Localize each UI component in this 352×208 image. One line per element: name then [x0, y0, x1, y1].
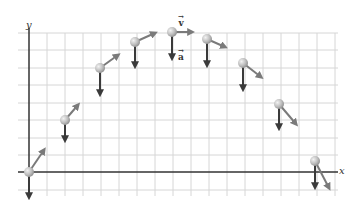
- y-axis-label: y: [26, 20, 32, 30]
- projectile-ball: [310, 156, 320, 166]
- projectile-ball: [202, 34, 212, 44]
- projectile-ball: [60, 115, 70, 125]
- projectile-ball: [274, 99, 284, 109]
- velocity-vector-label: → v: [176, 14, 186, 28]
- projectile-ball: [95, 63, 105, 73]
- velocity-symbol: v: [178, 18, 183, 28]
- projectile-ball: [238, 58, 248, 68]
- acceleration-symbol: a: [178, 52, 184, 62]
- projectile-ball: [130, 37, 140, 47]
- projectile-motion-diagram: [0, 0, 352, 208]
- x-axis-label: x: [339, 166, 345, 176]
- projectile-ball: [167, 27, 177, 37]
- projectile-ball: [24, 167, 34, 177]
- acceleration-vector-label: → a: [176, 48, 186, 62]
